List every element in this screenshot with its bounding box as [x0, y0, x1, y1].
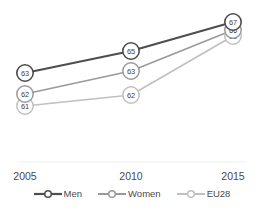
data-label: 62: [127, 91, 135, 100]
data-point-men-2005[interactable]: 63: [17, 65, 33, 81]
data-label: 65: [127, 47, 135, 56]
data-label: 62: [21, 90, 29, 99]
data-label: 61: [21, 102, 29, 111]
data-label: 67: [229, 18, 237, 27]
x-tick-2015: 2015: [221, 170, 245, 182]
legend-marker-icon: [176, 188, 206, 200]
data-point-men-2015[interactable]: 67: [225, 14, 241, 30]
data-point-women-2005[interactable]: 62: [17, 86, 33, 102]
legend-item-women[interactable]: Women: [97, 188, 161, 200]
line-chart: 61 62 66 62 63 66: [0, 0, 263, 212]
series-line-women: [25, 30, 233, 94]
data-label: 63: [127, 67, 135, 76]
legend-item-men[interactable]: Men: [33, 188, 82, 200]
chart-plot-area: 61 62 66 62 63 66: [0, 0, 263, 212]
data-label: 63: [21, 69, 29, 78]
data-point-eu28-2010[interactable]: 62: [123, 87, 139, 103]
legend-item-eu28[interactable]: EU28: [176, 188, 231, 200]
data-point-men-2010[interactable]: 65: [123, 43, 139, 59]
x-tick-2010: 2010: [119, 170, 143, 182]
legend-label-men: Men: [64, 189, 82, 199]
legend-label-women: Women: [128, 189, 161, 199]
chart-legend: Men Women EU28: [0, 188, 263, 200]
data-point-women-2010[interactable]: 63: [123, 63, 139, 79]
legend-marker-icon: [97, 188, 127, 200]
legend-label-eu28: EU28: [207, 189, 231, 199]
x-tick-2005: 2005: [13, 170, 37, 182]
legend-marker-icon: [33, 188, 63, 200]
